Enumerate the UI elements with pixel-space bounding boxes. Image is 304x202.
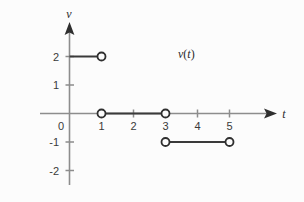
open-circle-marker-t1-v0	[98, 110, 106, 118]
x-tick-label-5: 5	[226, 120, 232, 132]
y-axis-label: v	[66, 7, 72, 21]
plot-canvas: 1 2 3 4 5 2 1 0 -1 -2 v t	[0, 0, 304, 202]
axis-group	[40, 22, 277, 185]
signal-trace	[70, 57, 228, 143]
y-tick-label-0: 0	[58, 120, 64, 132]
open-circle-marker-t3-vminus1	[162, 138, 170, 146]
signal-name-close-paren: )	[191, 47, 195, 61]
x-tick-label-4: 4	[194, 120, 200, 132]
open-circle-marker-t1-v2	[98, 53, 106, 61]
open-circle-marker-t5-vminus1	[226, 138, 234, 146]
y-tick-label-1: 1	[53, 79, 59, 91]
signal-name-label: v(t)	[178, 47, 195, 61]
y-tick-label-2: 2	[53, 51, 59, 63]
y-tick-label-minus2: -2	[49, 165, 59, 177]
open-circle-marker-t3-v0	[162, 110, 170, 118]
y-tick-label-minus1: -1	[49, 136, 59, 148]
x-axis-label: t	[282, 107, 286, 121]
x-tick-labels: 1 2 3 4 5	[98, 120, 232, 132]
x-tick-label-3: 3	[162, 120, 168, 132]
x-tick-label-2: 2	[130, 120, 136, 132]
signal-plot-figure: 1 2 3 4 5 2 1 0 -1 -2 v t	[0, 0, 304, 202]
x-tick-label-1: 1	[98, 120, 104, 132]
